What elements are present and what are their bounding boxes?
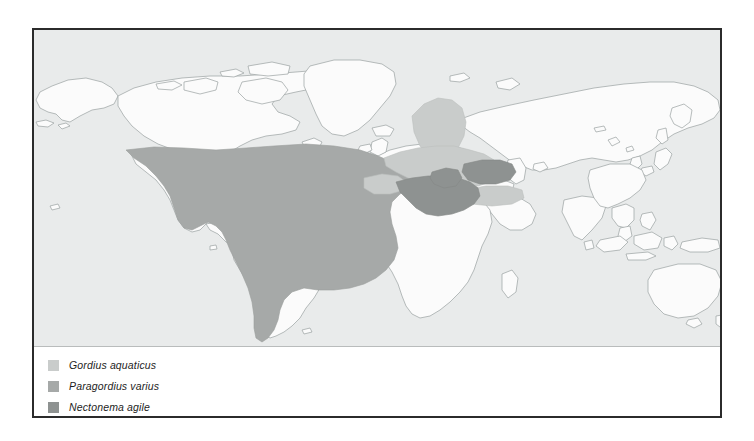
- legend-swatch-paragordius-varius: [48, 381, 59, 392]
- legend-item-paragordius-varius: Paragordius varius: [48, 377, 720, 395]
- figure-frame: Gordius aquaticus Paragordius varius Nec…: [32, 28, 722, 418]
- distribution-map-figure: Gordius aquaticus Paragordius varius Nec…: [0, 0, 754, 441]
- world-map-panel: [34, 30, 720, 346]
- legend-panel: Gordius aquaticus Paragordius varius Nec…: [34, 347, 720, 416]
- world-map-svg: [34, 30, 720, 346]
- region-nectonema-agile-black-sea: [462, 160, 516, 184]
- legend-item-nectonema-agile: Nectonema agile: [48, 398, 720, 416]
- land-sri-lanka: [584, 240, 594, 250]
- legend-label-paragordius-varius: Paragordius varius: [69, 380, 159, 392]
- legend-swatch-nectonema-agile: [48, 402, 59, 413]
- legend-label-nectonema-agile: Nectonema agile: [69, 401, 150, 413]
- legend-swatch-gordius-aquaticus: [48, 360, 59, 371]
- legend-label-gordius-aquaticus: Gordius aquaticus: [69, 359, 156, 371]
- legend-item-gordius-aquaticus: Gordius aquaticus: [48, 356, 720, 374]
- land-island-galapagos: [210, 245, 217, 250]
